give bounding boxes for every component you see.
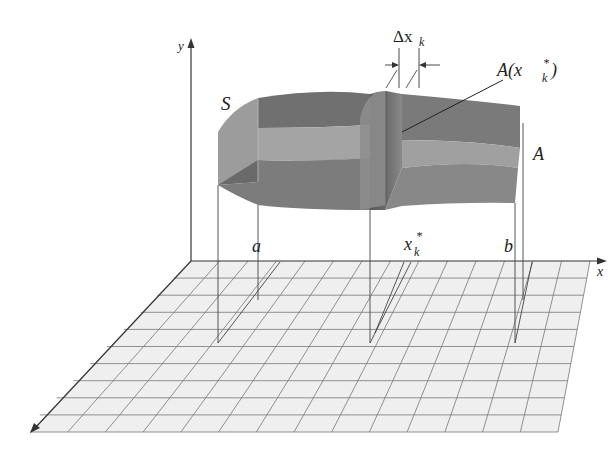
delta-x-sub: k xyxy=(419,35,425,49)
lower-limit-label: a xyxy=(252,236,261,256)
solid-label: S xyxy=(221,93,231,114)
floor-grid xyxy=(30,261,590,432)
right-lower-band xyxy=(385,164,518,210)
cross-section-label: A xyxy=(532,144,545,164)
upper-limit-label: b xyxy=(504,236,513,256)
solid-volume-diagram: y x S A a b x * k Δx k A(x * k ) xyxy=(0,0,615,466)
delta-x-label: Δx xyxy=(393,27,413,46)
sample-point-label: x xyxy=(403,234,412,254)
area-sample-sup: * xyxy=(543,56,549,70)
area-sample-label: A(x xyxy=(496,60,522,81)
arrow-left-icon xyxy=(419,62,426,68)
delta-x-marker xyxy=(385,48,440,88)
sample-point-sub: k xyxy=(414,245,420,259)
body-middle-band xyxy=(258,125,370,161)
area-sample-close: ) xyxy=(550,60,557,81)
y-axis-label: y xyxy=(176,38,184,53)
slab-front-face xyxy=(360,91,386,210)
body-upper-band xyxy=(258,92,370,128)
y-axis-arrow-icon xyxy=(188,38,195,48)
area-sample-sub: k xyxy=(542,71,548,85)
sample-point-sup: * xyxy=(416,229,422,243)
arrow-right-icon xyxy=(392,62,399,68)
solid-s xyxy=(218,91,520,210)
x-axis-label: x xyxy=(596,264,604,279)
